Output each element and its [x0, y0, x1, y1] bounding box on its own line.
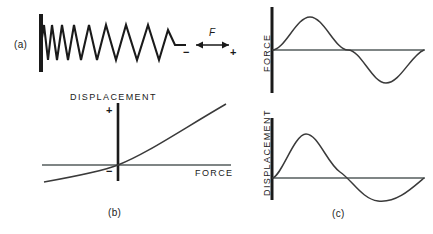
- figure-root: (a) − F + DISPLACEMENT + − FORCE (b) FOR…: [0, 0, 433, 234]
- panel-c-displacement-wave: [272, 134, 424, 201]
- panel-a-plus-sign: +: [230, 47, 236, 58]
- panel-c-top-axis-label: FORCE: [263, 34, 272, 73]
- panel-c-bottom-axis-label: DISPLACEMENT: [263, 109, 272, 196]
- panel-c-bottom-group: [272, 118, 425, 201]
- panel-a-group: [41, 14, 229, 72]
- panel-a-minus-sign: −: [183, 47, 189, 58]
- panel-a-tag: (a): [14, 40, 27, 50]
- panel-c-top-group: [272, 7, 425, 93]
- panel-a-force-label: F: [209, 28, 216, 38]
- panel-b-tag: (b): [108, 208, 121, 218]
- nonlinear-spring-icon: [41, 25, 186, 60]
- panel-b-plus-sign: +: [106, 105, 112, 116]
- panel-b-x-axis-label: FORCE: [195, 169, 234, 178]
- panel-c-tag: (c): [332, 209, 345, 219]
- panel-b-y-axis-label: DISPLACEMENT: [70, 93, 157, 102]
- panel-b-minus-sign: −: [106, 166, 112, 177]
- double-arrow-icon: [196, 42, 229, 49]
- figure-linework: [0, 0, 433, 234]
